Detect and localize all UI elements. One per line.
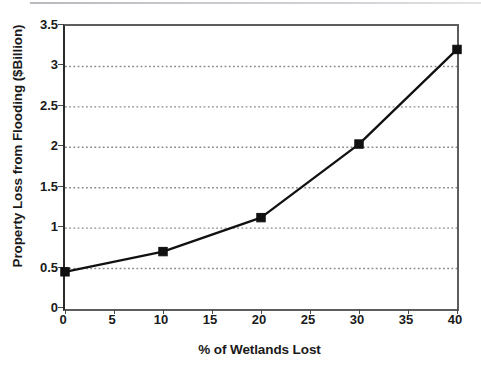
data-point-marker <box>61 268 69 276</box>
series-line-property-loss <box>65 26 457 309</box>
y-tick-label: 0 <box>4 301 58 314</box>
y-tick-label: 3.5 <box>4 18 58 31</box>
y-tick-label: 1 <box>4 220 58 233</box>
y-tick-label: 1.5 <box>4 179 58 192</box>
x-tick-label: 20 <box>239 313 279 326</box>
series-line <box>65 49 457 271</box>
x-tick-label: 25 <box>288 313 328 326</box>
x-tick-label: 35 <box>386 313 426 326</box>
x-axis-tick-labels: 0510152025303540 <box>63 313 455 333</box>
x-tick-label: 5 <box>92 313 132 326</box>
chart-figure: Property Loss from Flooding ($Billion) 0… <box>0 0 481 376</box>
x-axis-title: % of Wetlands Lost <box>63 342 456 357</box>
x-tick-label: 10 <box>141 313 181 326</box>
x-tick-label: 30 <box>337 313 377 326</box>
x-tick-label: 40 <box>435 313 475 326</box>
y-axis-tick-labels: 00.511.522.533.5 <box>0 24 58 307</box>
plot-area <box>63 24 459 311</box>
y-tick-label: 2 <box>4 139 58 152</box>
y-tick-label: 0.5 <box>4 260 58 273</box>
data-point-marker <box>453 45 461 53</box>
x-tick-label: 15 <box>190 313 230 326</box>
data-point-marker <box>355 140 363 148</box>
data-point-marker <box>257 213 265 221</box>
x-tick-label: 0 <box>43 313 83 326</box>
page-top-rule <box>30 2 481 4</box>
y-tick-label: 3 <box>4 58 58 71</box>
y-tick-label: 2.5 <box>4 98 58 111</box>
data-point-marker <box>159 247 167 255</box>
